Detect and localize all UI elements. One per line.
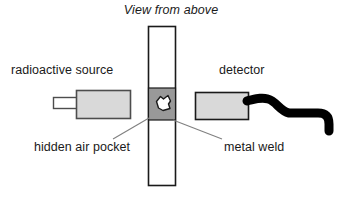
figure-container: View from above radioactive source detec… bbox=[0, 0, 342, 201]
label-radioactive-source: radioactive source bbox=[11, 63, 113, 77]
detector-body bbox=[196, 93, 249, 120]
label-metal-weld: metal weld bbox=[224, 140, 284, 154]
label-detector: detector bbox=[219, 63, 265, 77]
radioactive-source-body bbox=[77, 91, 131, 119]
radioactive-source-nozzle bbox=[54, 98, 78, 109]
detector-cable bbox=[247, 98, 329, 131]
label-hidden-air-pocket: hidden air pocket bbox=[34, 140, 130, 154]
diagram-canvas bbox=[0, 0, 342, 201]
leader-line-air-pocket bbox=[113, 118, 149, 139]
leader-line-metal-weld bbox=[173, 120, 222, 139]
